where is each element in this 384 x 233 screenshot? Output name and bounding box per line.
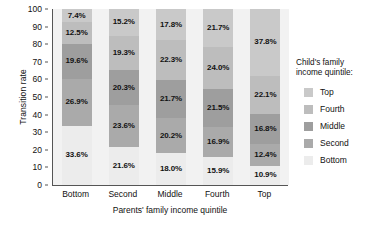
bar-segment-label: 19.6% — [66, 57, 88, 65]
bar-segment-label: 20.3% — [113, 84, 135, 92]
bar-segment-label: 37.8% — [254, 38, 276, 46]
legend-items: TopFourthMiddleSecondBottom — [296, 84, 382, 169]
y-tick-label: 70 — [33, 58, 42, 67]
legend-item[interactable]: Second — [296, 135, 382, 152]
bar-segment[interactable]: 21.6% — [109, 147, 139, 185]
bar-segment-label: 18.0% — [160, 165, 182, 173]
bar-segment-label: 16.8% — [254, 125, 276, 133]
bar-group: 21.6%23.6%20.3%19.3%15.2% — [100, 9, 147, 185]
legend-item[interactable]: Bottom — [296, 152, 382, 169]
x-axis-line — [52, 185, 288, 186]
x-tick-label: Fourth — [205, 189, 230, 199]
bar-segment[interactable]: 17.8% — [156, 9, 186, 40]
y-tick-mark — [45, 61, 48, 62]
y-tick-label: 50 — [33, 93, 42, 102]
bar-segment[interactable]: 33.6% — [62, 126, 92, 185]
bar-segment[interactable]: 10.9% — [250, 166, 280, 185]
plot-area: 33.6%26.9%19.6%12.5%7.4%21.6%23.6%20.3%1… — [52, 9, 289, 185]
x-axis-tick-labels: BottomSecondMiddleFourthTop — [52, 189, 288, 203]
y-tick-label: 90 — [33, 22, 42, 31]
bar-segment[interactable]: 19.6% — [62, 44, 92, 78]
bar-segment-label: 21.5% — [207, 104, 229, 112]
y-tick-mark — [45, 149, 48, 150]
legend-item-label: Second — [320, 139, 349, 148]
bar-segment[interactable]: 18.0% — [156, 153, 186, 185]
y-tick-label: 80 — [33, 40, 42, 49]
y-tick-mark — [45, 44, 48, 45]
bar-segment[interactable]: 24.0% — [203, 47, 233, 89]
bar-segment-label: 26.9% — [66, 98, 88, 106]
y-tick-label: 60 — [33, 75, 42, 84]
bar-segment-label: 24.0% — [207, 64, 229, 72]
legend-item[interactable]: Middle — [296, 118, 382, 135]
bar-segment[interactable]: 12.5% — [62, 22, 92, 44]
bar-segment[interactable]: 26.9% — [62, 79, 92, 126]
bar-segment[interactable]: 7.4% — [62, 9, 92, 22]
bar-segment[interactable]: 21.7% — [203, 9, 233, 47]
bar-segment-label: 22.3% — [160, 56, 182, 64]
bar-segment[interactable]: 21.5% — [203, 89, 233, 127]
bar-group: 15.9%16.9%21.5%24.0%21.7% — [195, 9, 242, 185]
y-tick-label: 20 — [33, 146, 42, 155]
legend-swatch-icon — [304, 105, 313, 114]
y-axis-tick-labels: 1009080706050403020100 — [22, 9, 48, 185]
y-tick-label: 10 — [33, 163, 42, 172]
bar-group: 18.0%20.2%21.7%22.3%17.8% — [147, 9, 194, 185]
legend-swatch-icon — [304, 156, 313, 165]
legend-item-label: Fourth — [320, 105, 345, 114]
bar-segment[interactable]: 21.7% — [156, 80, 186, 118]
bar-segment[interactable]: 12.4% — [250, 144, 280, 166]
legend: Child's family income quintile: TopFourt… — [296, 58, 382, 169]
y-tick-mark — [45, 185, 48, 186]
bar-segment-label: 20.2% — [160, 132, 182, 140]
y-tick-mark — [45, 167, 48, 168]
bar-segment-label: 17.8% — [160, 21, 182, 29]
bar-segment[interactable]: 20.2% — [156, 118, 186, 154]
bar-segment-label: 7.4% — [68, 12, 86, 20]
y-tick-mark — [45, 26, 48, 27]
legend-item[interactable]: Fourth — [296, 101, 382, 118]
bar-segment-label: 21.7% — [160, 95, 182, 103]
y-tick-mark — [45, 9, 48, 10]
stacked-bar-chart: Transition rate 1009080706050403020100 3… — [0, 0, 384, 233]
bar-stack[interactable]: 21.6%23.6%20.3%19.3%15.2% — [109, 9, 139, 185]
bar-segment[interactable]: 22.1% — [250, 76, 280, 115]
bar-segment-label: 10.9% — [254, 171, 276, 179]
y-tick-label: 0 — [37, 181, 42, 190]
bar-segment[interactable]: 15.9% — [203, 157, 233, 185]
bar-segment-label: 21.6% — [113, 162, 135, 170]
bar-segment-label: 16.9% — [207, 138, 229, 146]
bar-group: 10.9%12.4%16.8%22.1%37.8% — [242, 9, 289, 185]
bar-segment[interactable]: 16.9% — [203, 127, 233, 157]
legend-swatch-icon — [304, 88, 313, 97]
bar-segment[interactable]: 15.2% — [109, 9, 139, 36]
bar-segment[interactable]: 20.3% — [109, 70, 139, 106]
bar-segment[interactable]: 37.8% — [250, 9, 280, 76]
bar-segment-label: 33.6% — [66, 151, 88, 159]
y-tick-mark — [45, 97, 48, 98]
bar-segment-label: 22.1% — [254, 91, 276, 99]
legend-item-label: Middle — [320, 122, 345, 131]
legend-swatch-icon — [304, 139, 313, 148]
bar-segment[interactable]: 16.8% — [250, 114, 280, 144]
bar-segment[interactable]: 23.6% — [109, 105, 139, 147]
bar-segment-label: 19.3% — [113, 49, 135, 57]
bar-stack[interactable]: 33.6%26.9%19.6%12.5%7.4% — [62, 9, 92, 185]
bar-stack[interactable]: 15.9%16.9%21.5%24.0%21.7% — [203, 9, 233, 185]
bar-group: 33.6%26.9%19.6%12.5%7.4% — [53, 9, 100, 185]
bar-stack[interactable]: 10.9%12.4%16.8%22.1%37.8% — [250, 9, 280, 185]
legend-item-label: Bottom — [320, 156, 347, 165]
bar-segment-label: 15.2% — [113, 18, 135, 26]
bar-segment[interactable]: 19.3% — [109, 36, 139, 70]
bar-segment-label: 23.6% — [113, 122, 135, 130]
x-axis-title: Parents' family income quintile — [52, 205, 288, 215]
x-tick-label: Top — [258, 189, 272, 199]
y-tick-mark — [45, 114, 48, 115]
bar-segment[interactable]: 22.3% — [156, 40, 186, 79]
legend-item-label: Top — [320, 88, 334, 97]
legend-swatch-icon — [304, 122, 313, 131]
bar-segment-label: 15.9% — [207, 167, 229, 175]
legend-item[interactable]: Top — [296, 84, 382, 101]
bar-stack[interactable]: 18.0%20.2%21.7%22.3%17.8% — [156, 9, 186, 185]
bar-segment-label: 21.7% — [207, 24, 229, 32]
